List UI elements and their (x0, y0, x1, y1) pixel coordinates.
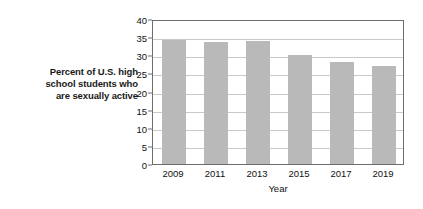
bar (246, 41, 270, 164)
y-axis-tick-label: 25 (122, 69, 147, 80)
y-axis-tick-label: 0 (122, 160, 147, 171)
y-axis-tick-label: 35 (122, 33, 147, 44)
y-axis-tick-label: 10 (122, 123, 147, 134)
bar-chart-figure: Percent of U.S. high school students who… (0, 0, 423, 209)
x-axis-tick-label: 2015 (276, 168, 322, 179)
y-axis-tick-label: 20 (122, 87, 147, 98)
plot-area (152, 20, 404, 165)
x-axis-title: Year (152, 183, 404, 194)
bar (288, 55, 312, 164)
bar (330, 62, 354, 164)
y-axis-tick-label: 30 (122, 51, 147, 62)
bar (372, 66, 396, 164)
x-axis-tick-label: 2019 (360, 168, 406, 179)
y-axis-tick-label: 15 (122, 105, 147, 116)
bar-series (153, 21, 403, 164)
x-axis-tick-label: 2011 (192, 168, 238, 179)
y-axis-tick-label: 5 (122, 141, 147, 152)
bar (162, 40, 186, 164)
x-axis-tick-label: 2017 (318, 168, 364, 179)
x-axis-tick-label: 2009 (150, 168, 196, 179)
x-axis-tick-label: 2013 (234, 168, 280, 179)
y-axis-tick-label: 40 (122, 15, 147, 26)
bar (204, 42, 228, 164)
